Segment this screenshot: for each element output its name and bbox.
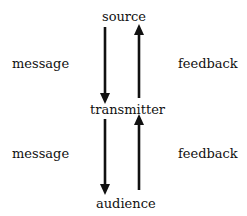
edge-label-message-bottom: message [12,146,69,161]
edge-label-feedback-top: feedback [178,56,238,71]
node-transmitter: transmitter [90,102,165,117]
feedback-arrow-up-bottom [134,114,144,190]
edge-label-message-top: message [12,56,69,71]
node-audience: audience [96,196,156,211]
message-arrow-down-bottom [100,119,110,195]
edge-label-feedback-bottom: feedback [178,146,238,161]
message-arrow-down-top [100,27,110,104]
feedback-arrow-up-top [134,24,144,98]
node-source: source [102,9,146,24]
